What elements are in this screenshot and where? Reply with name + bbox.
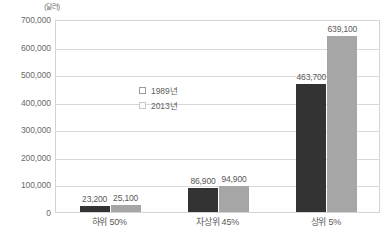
x-axis-category-label: 하위 50% [55, 215, 163, 228]
bar-value-label: 463,700 [290, 72, 332, 82]
bar-value-label: 94,900 [213, 174, 255, 184]
bars-layer: 23,20025,10086,90094,900463,700639,100 [56, 21, 379, 212]
bar-group: 463,700639,100 [296, 21, 357, 212]
y-axis-tick-label: 100,000 [0, 180, 51, 190]
y-axis-unit-label: (달러) [14, 1, 60, 11]
y-axis-tick-label: 200,000 [0, 153, 51, 163]
bar-2013[interactable] [327, 36, 357, 212]
legend-item-1989[interactable]: 1989년 [139, 84, 177, 96]
legend-label-2013: 2013년 [151, 99, 177, 111]
bar-group: 23,20025,100 [80, 21, 141, 212]
bar-value-label: 639,100 [321, 24, 363, 34]
bar-1989[interactable] [80, 206, 110, 212]
y-axis: 700,000600,000500,000400,000300,000200,0… [0, 20, 51, 213]
y-axis-tick-label: 700,000 [0, 15, 51, 25]
x-axis-category-label: 차상위 45% [163, 215, 271, 228]
legend: 1989년 2013년 [139, 84, 177, 111]
y-axis-tick-label: 500,000 [0, 70, 51, 80]
bar-2013[interactable] [111, 205, 141, 212]
bar-value-label: 25,100 [105, 193, 147, 203]
legend-label-1989: 1989년 [151, 84, 177, 96]
bar-1989[interactable] [296, 84, 326, 212]
y-axis-tick-label: 600,000 [0, 43, 51, 53]
x-axis: 하위 50%차상위 45%상위 5% [55, 215, 380, 235]
y-axis-tick-label: 0 [0, 208, 51, 218]
y-axis-tick-label: 400,000 [0, 98, 51, 108]
bar-2013[interactable] [219, 186, 249, 212]
legend-swatch-icon-1989 [139, 87, 146, 94]
x-axis-category-label: 상위 5% [272, 215, 380, 228]
bar-1989[interactable] [188, 188, 218, 212]
bar-group: 86,90094,900 [188, 21, 249, 212]
legend-item-2013[interactable]: 2013년 [139, 99, 177, 111]
bar-chart: (달러) 700,000600,000500,000400,000300,000… [0, 0, 391, 243]
y-axis-tick-label: 300,000 [0, 125, 51, 135]
plot-area: 23,20025,10086,90094,900463,700639,100 1… [55, 20, 380, 213]
legend-swatch-icon-2013 [139, 102, 146, 109]
